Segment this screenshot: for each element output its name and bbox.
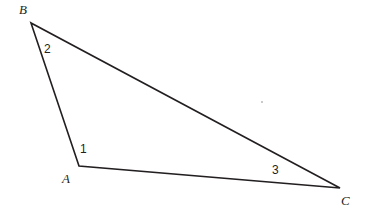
vertex-label-a: A bbox=[62, 172, 70, 185]
dot-artifact-icon bbox=[261, 101, 263, 103]
triangle-shape bbox=[0, 0, 370, 215]
geometry-figure: B A C 1 2 3 bbox=[0, 0, 370, 215]
triangle-outline bbox=[31, 23, 340, 188]
vertex-label-c: C bbox=[341, 194, 350, 207]
angle-label-1: 1 bbox=[80, 143, 87, 155]
angle-label-3: 3 bbox=[272, 164, 279, 176]
vertex-label-b: B bbox=[19, 3, 27, 16]
angle-label-2: 2 bbox=[44, 43, 51, 55]
